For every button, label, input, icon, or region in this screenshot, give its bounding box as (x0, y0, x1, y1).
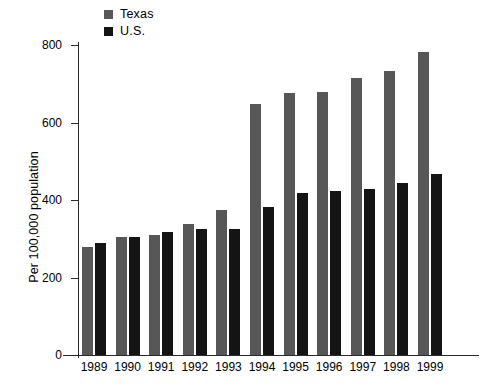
bar-texas-1995 (284, 93, 295, 355)
y-axis-tick-label: 600 (0, 117, 62, 129)
bar-texas-1997 (351, 78, 362, 355)
bar-texas-1993 (216, 210, 227, 355)
y-axis-tick (71, 123, 78, 124)
bar-us-1990 (129, 237, 140, 355)
y-axis-tick (71, 200, 78, 201)
y-axis-tick-label: 200 (0, 272, 62, 284)
bar-texas-1989 (82, 247, 93, 355)
bar-texas-1996 (317, 92, 328, 356)
bar-texas-1994 (250, 104, 261, 355)
y-axis-tick-labels: 0200400600800 (0, 0, 68, 392)
legend-swatch-us (104, 27, 113, 36)
y-axis-tick (71, 278, 78, 279)
legend-label-us: U.S. (120, 25, 145, 38)
bar-texas-1990 (116, 237, 127, 355)
bar-us-1994 (263, 207, 274, 355)
bar-us-1992 (196, 229, 207, 355)
y-axis-tick-label: 0 (0, 349, 62, 361)
bar-us-1999 (431, 174, 442, 355)
bar-us-1996 (330, 191, 341, 355)
bar-us-1995 (297, 193, 308, 355)
bar-texas-1998 (384, 71, 395, 355)
bar-us-1997 (364, 189, 375, 355)
bar-us-1989 (95, 243, 106, 355)
x-axis-tick-label: 1999 (407, 361, 453, 373)
y-axis-tick-label: 800 (0, 39, 62, 51)
bar-us-1991 (162, 232, 173, 355)
chart-legend: Texas U.S. (104, 6, 154, 40)
bar-texas-1999 (418, 52, 429, 355)
y-axis-tick (71, 45, 78, 46)
legend-swatch-texas (104, 10, 113, 19)
legend-item-texas: Texas (104, 6, 154, 23)
bar-texas-1991 (149, 235, 160, 356)
bar-texas-1992 (183, 224, 194, 355)
y-axis-tick (71, 355, 78, 356)
legend-label-texas: Texas (120, 8, 154, 21)
y-axis-tick-label: 400 (0, 194, 62, 206)
bar-us-1993 (229, 229, 240, 355)
bar-chart: Texas U.S. Per 100,000 population 020040… (0, 0, 485, 392)
x-axis-line (63, 355, 479, 356)
legend-item-us: U.S. (104, 23, 154, 40)
plot-area (78, 45, 478, 355)
bar-us-1998 (397, 183, 408, 355)
